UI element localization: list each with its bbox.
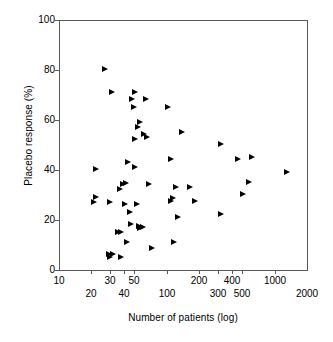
data-point-marker [109,89,115,95]
x-tick-mark [91,271,92,274]
data-point-marker [118,229,124,235]
x-tick-label-upper: 10 [39,276,79,286]
data-point-marker [132,136,138,142]
data-point-marker [93,166,99,172]
y-tick-label: 40 [13,165,55,175]
x-tick-label-lower: 40 [104,289,144,299]
data-point-marker [132,164,138,170]
y-tick-mark [55,270,59,271]
x-tick-mark [232,271,233,274]
data-point-marker [218,141,224,147]
y-axis-title: Placebo response (%) [23,51,34,221]
data-point-marker [284,169,290,175]
data-point-marker [128,221,134,227]
data-point-marker [240,191,246,197]
scatter-plot-figure: Placebo response (%) Number of patients … [0,0,333,342]
x-tick-mark [124,271,125,274]
data-point-marker [165,104,171,110]
data-point-marker [122,201,128,207]
data-point-marker [187,184,193,190]
data-point-marker [132,89,138,95]
data-point-marker [137,225,143,231]
data-point-marker [118,254,124,260]
x-tick-label-upper: 400 [212,276,252,286]
x-tick-label-upper: 50 [114,276,154,286]
data-point-marker [173,184,179,190]
y-tick-label: 20 [13,215,55,225]
y-tick-label-text: 20 [23,215,55,225]
data-point-marker [179,129,185,135]
data-point-marker [125,159,131,165]
y-tick-label: 60 [13,115,55,125]
plot-area [59,20,307,270]
data-point-marker [117,186,123,192]
data-point-marker [135,124,141,130]
y-tick-label-text: 60 [23,115,55,125]
x-tick-label-lower: 500 [222,289,262,299]
data-point-marker [131,104,137,110]
x-tick-mark [199,271,200,274]
y-tick-label-text: 40 [23,165,55,175]
data-point-marker [102,66,108,72]
data-point-marker [218,211,224,217]
data-point-marker [144,134,150,140]
x-tick-label-lower: 2000 [287,289,327,299]
y-tick-label: 100 [13,15,55,25]
data-point-marker [246,179,252,185]
x-tick-mark [110,271,111,274]
data-point-marker [192,198,198,204]
data-point-marker [175,214,181,220]
data-point-marker [143,96,149,102]
x-tick-mark [218,271,219,274]
y-tick-label-text: 80 [23,65,55,75]
data-point-marker [149,245,155,251]
data-point-marker [107,199,113,205]
data-point-marker [146,181,152,187]
y-tick-label: 80 [13,65,55,75]
plot-frame-right [307,20,308,271]
x-tick-label-upper: 1000 [255,276,295,286]
data-point-marker [134,201,140,207]
x-axis-title: Number of patients (log) [59,312,307,323]
x-tick-mark [242,271,243,274]
y-tick-label-text: 100 [23,15,55,25]
data-point-marker [91,199,97,205]
x-tick-mark [275,271,276,274]
data-point-marker [107,254,113,260]
data-point-marker [127,209,133,215]
y-tick-label-text: 0 [23,265,55,275]
data-point-marker [124,239,130,245]
data-point-marker [168,198,174,204]
x-tick-mark [167,271,168,274]
data-point-marker [129,96,135,102]
data-point-marker [168,156,174,162]
x-tick-mark [134,271,135,274]
data-point-marker [235,156,241,162]
y-tick-label: 0 [13,265,55,275]
data-point-marker [249,154,255,160]
x-tick-label-lower: 100 [147,289,187,299]
data-point-marker [171,239,177,245]
x-axis-line [59,270,308,271]
